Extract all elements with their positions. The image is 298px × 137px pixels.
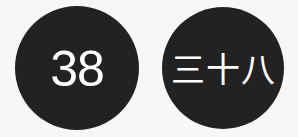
badge-label: 三十八 (171, 53, 276, 87)
badge-label: 38 (50, 44, 104, 94)
number-badge-chinese: 三十八 (162, 7, 284, 129)
number-badge-arabic: 38 (15, 6, 139, 130)
